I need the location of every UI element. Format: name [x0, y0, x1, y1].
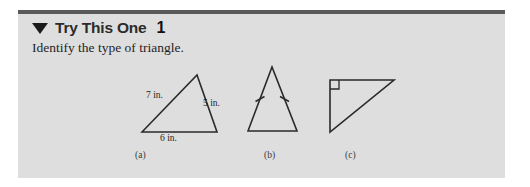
- figure-b-isosceles-triangle: [245, 62, 305, 137]
- figure-a-base-label: 6 in.: [160, 133, 177, 143]
- figure-a-right-side-label: 5 in.: [203, 98, 220, 108]
- figure-a-left-side-label: 7 in.: [146, 90, 163, 100]
- section-title: Try This One: [55, 19, 147, 37]
- isosceles-triangle-shape: [248, 67, 297, 131]
- triangle-down-icon: [32, 23, 48, 34]
- panel-top-rule: [18, 10, 505, 14]
- right-angle-square-icon: [330, 80, 339, 89]
- figure-b-caption: (b): [264, 150, 275, 160]
- figure-a-caption: (a): [135, 150, 146, 160]
- right-triangle-drawing: [326, 74, 401, 139]
- isosceles-triangle-drawing: [245, 62, 305, 137]
- prompt-text: Identify the type of triangle.: [32, 40, 184, 56]
- figure-c-caption: (c): [345, 150, 356, 160]
- section-header: Try This One 1: [32, 18, 165, 38]
- section-number: 1: [157, 19, 166, 37]
- figure-c-right-triangle: [326, 74, 401, 139]
